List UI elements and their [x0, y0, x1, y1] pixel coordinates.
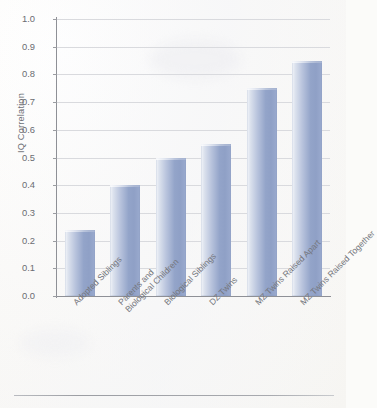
y-axis-tick-label: 0.9: [0, 41, 35, 52]
y-axis-tick-label: 0.0: [0, 290, 35, 301]
bar: [247, 88, 277, 296]
y-axis-tick-label: 0.6: [0, 124, 35, 135]
bar: [201, 144, 231, 296]
bar-top-highlight: [247, 88, 277, 90]
y-axis-tick-label: 1.0: [0, 13, 35, 24]
bars-layer: [57, 19, 330, 296]
x-axis-line: [56, 296, 331, 297]
y-axis-tick-label: 0.3: [0, 207, 35, 218]
y-axis-tick-label: 0.7: [0, 96, 35, 107]
footer-divider-rule: [14, 395, 334, 396]
bar-top-highlight: [110, 185, 140, 187]
y-axis-tick-label: 0.5: [0, 152, 35, 163]
bar-top-highlight: [156, 158, 186, 160]
y-axis-tick-label: 0.2: [0, 235, 35, 246]
y-axis-tick: [53, 296, 57, 297]
plot-area: 1.00.90.80.70.60.50.40.30.20.10.0: [57, 19, 330, 296]
bar-top-highlight: [65, 230, 95, 232]
y-axis-tick-label: 0.4: [0, 179, 35, 190]
bar-top-highlight: [201, 144, 231, 146]
bar-top-highlight: [292, 61, 322, 63]
y-axis-tick-label: 0.8: [0, 68, 35, 79]
y-axis-tick-label: 0.1: [0, 262, 35, 273]
